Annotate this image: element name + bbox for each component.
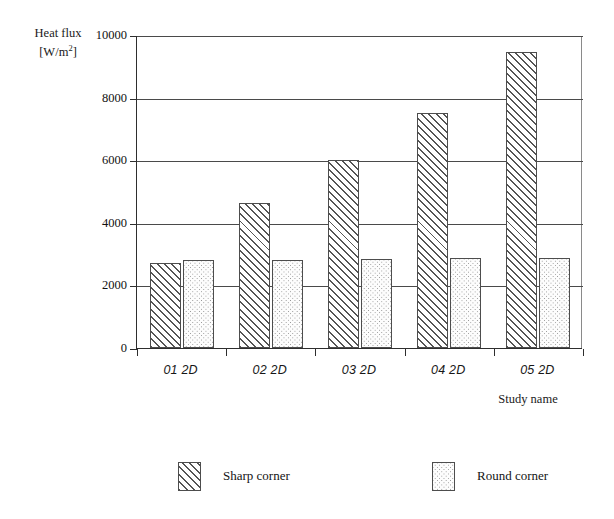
x-axis-category-label: 04 2D [404,363,493,377]
bar-sharp-corner [150,263,181,348]
legend-swatch-sharp-corner [178,462,201,491]
bar-chart-figure: Heat flux [W/m2] 0200040006000800010000 … [0,0,614,519]
x-axis-tick [583,349,584,356]
x-axis-tick [137,349,138,356]
y-axis-tick [130,99,137,100]
y-axis-tick-label: 0 [67,341,127,356]
x-axis-category-label: 01 2D [136,363,225,377]
y-axis-unit: [W/m2] [14,41,102,60]
y-axis-tick-label: 10000 [67,28,127,43]
bar-round-corner [361,259,392,348]
legend-item: Round corner [432,460,548,492]
legend-label: Round corner [477,468,548,484]
y-axis-tick [130,349,137,350]
x-axis-tick [226,349,227,356]
x-axis-tick [405,349,406,356]
y-axis-tick-label: 6000 [67,153,127,168]
bar-round-corner [272,260,303,348]
bar-sharp-corner [506,52,537,348]
x-axis-category-label: 03 2D [314,363,403,377]
x-axis-title: Study name [458,392,598,407]
y-axis-tick [130,224,137,225]
gridline [137,36,583,37]
y-axis-unit-prefix: [W/m [39,45,68,59]
bar-sharp-corner [328,160,359,348]
legend-label: Sharp corner [223,468,290,484]
legend-swatch-round-corner [432,462,455,491]
y-axis-tick [130,286,137,287]
x-axis-tick [315,349,316,356]
bar-round-corner [539,258,570,348]
plot-area [136,36,582,349]
bar-round-corner [183,260,214,348]
x-axis-category-label: 05 2D [493,363,582,377]
y-axis-tick-label: 8000 [67,91,127,106]
bar-sharp-corner [239,203,270,348]
y-axis-tick [130,161,137,162]
bar-sharp-corner [417,113,448,348]
y-axis-tick [130,36,137,37]
x-axis-tick [494,349,495,356]
y-axis-tick-label: 4000 [67,216,127,231]
chart-legend: Sharp cornerRound corner [0,460,614,505]
bar-round-corner [450,258,481,348]
legend-item: Sharp corner [178,460,290,492]
y-axis-unit-suffix: ] [73,45,77,59]
y-axis-tick-label: 2000 [67,278,127,293]
x-axis-category-label: 02 2D [225,363,314,377]
